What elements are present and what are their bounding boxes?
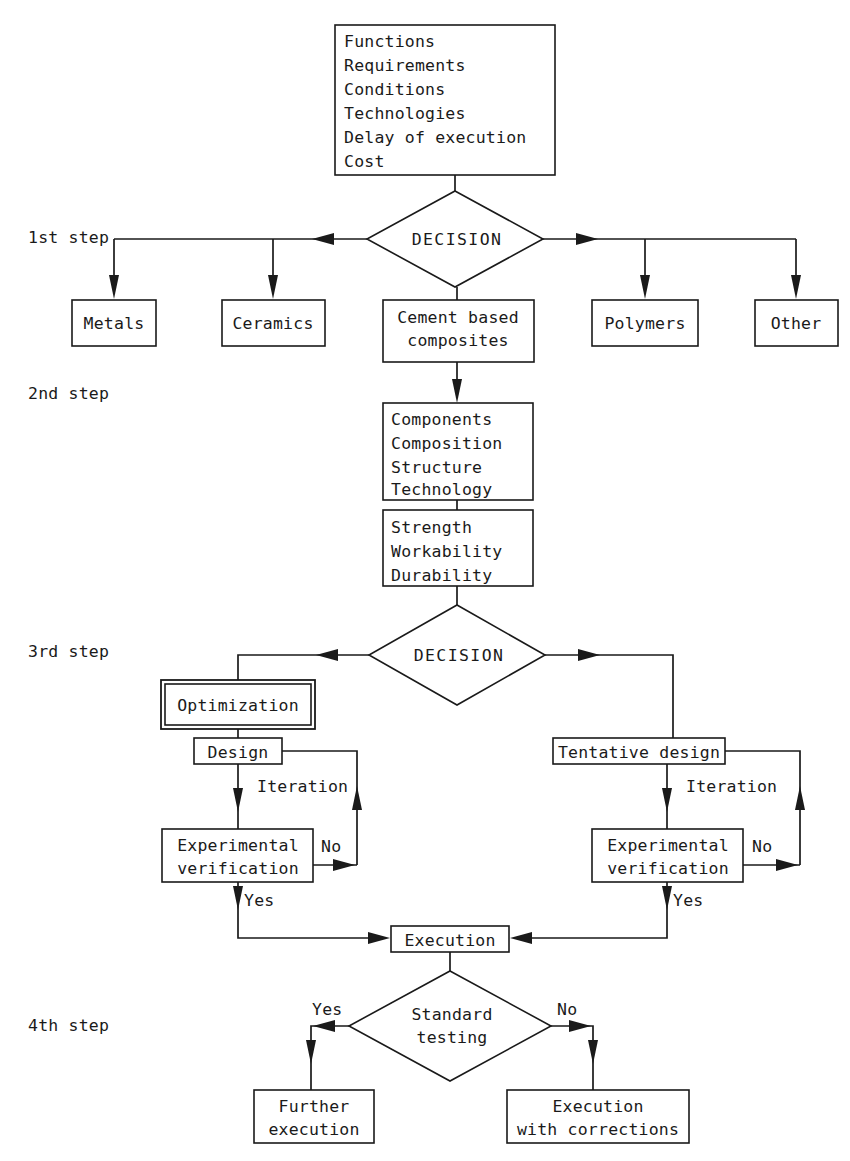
edge-label-iteration-left: Iteration (257, 777, 348, 796)
arrowhead-yes-right (662, 886, 672, 910)
cement-composites-line-1: Cement based (397, 308, 519, 327)
edge-decision2-to-tentative (545, 655, 673, 738)
arrowhead-execution-left (368, 932, 390, 944)
arrowhead-decision2-right (578, 649, 600, 661)
step-label-1st: 1st step (28, 228, 109, 247)
arrowhead-iteration-right (795, 786, 805, 810)
node-polymers: Polymers (592, 300, 698, 346)
arrowhead-other (791, 275, 801, 299)
node-requirements: Functions Requirements Conditions Techno… (335, 25, 555, 175)
arrowhead-ceramics (268, 275, 278, 299)
requirements-line-6: Cost (344, 152, 385, 171)
further-execution-line-2: execution (268, 1120, 359, 1139)
other-label: Other (771, 314, 822, 333)
arrowhead-execution-right (510, 932, 532, 944)
edge-verification-right-yes-to-execution (517, 882, 667, 938)
edge-label-yes-right: Yes (673, 891, 703, 910)
cement-composites-line-2: composites (407, 331, 508, 350)
arrowhead-yes-left (233, 886, 243, 910)
node-optimization: Optimization (161, 680, 315, 729)
arrowhead-verification-right (662, 788, 672, 812)
arrowhead-decision1-right (576, 233, 598, 245)
properties-line-2: Workability (391, 542, 502, 561)
requirements-line-4: Technologies (344, 104, 466, 123)
decision1-label: DECISION (412, 230, 503, 249)
arrowhead-execution-corrections (588, 1040, 598, 1064)
requirements-line-2: Requirements (344, 56, 466, 75)
ceramics-label: Ceramics (232, 314, 313, 333)
properties-line-3: Durability (391, 566, 492, 585)
arrowhead-decision2-left (316, 649, 338, 661)
execution-corrections-line-2: with corrections (517, 1120, 679, 1139)
standard-testing-line-2: testing (417, 1028, 488, 1047)
edge-testing-yes (311, 1026, 349, 1090)
node-tentative-design: Tentative design (553, 738, 725, 764)
composition-line-3: Structure (391, 458, 482, 477)
standard-testing-shape (349, 971, 551, 1081)
edge-label-no-left: No (321, 837, 341, 856)
execution-corrections-line-1: Execution (552, 1097, 643, 1116)
arrowhead-verification-left (233, 788, 243, 812)
step-label-2nd: 2nd step (28, 384, 109, 403)
further-execution-line-1: Further (279, 1097, 350, 1116)
composition-line-2: Composition (391, 434, 502, 453)
arrowhead-no-right (776, 859, 798, 871)
design-label: Design (208, 743, 269, 762)
edge-testing-no (551, 1026, 593, 1090)
composition-line-1: Components (391, 410, 492, 429)
node-execution-with-corrections: Execution with corrections (507, 1090, 689, 1143)
node-experimental-verification-left: Experimental verification (162, 829, 313, 882)
requirements-line-1: Functions (344, 32, 435, 51)
verification-right-line-1: Experimental (607, 836, 729, 855)
flowchart-diagram: 1st step 2nd step 3rd step 4th step Func… (0, 0, 850, 1161)
arrowhead-iteration-left (352, 786, 362, 810)
standard-testing-line-1: Standard (411, 1005, 492, 1024)
arrowhead-metals (109, 275, 119, 299)
decision2-label: DECISION (414, 646, 505, 665)
properties-line-1: Strength (391, 518, 472, 537)
edge-label-iteration-right: Iteration (686, 777, 777, 796)
execution-label: Execution (404, 931, 495, 950)
node-cement-composites: Cement based composites (383, 300, 534, 362)
node-other: Other (755, 300, 838, 346)
edge-label-testing-no: No (557, 1000, 577, 1019)
arrowhead-no-left (333, 859, 355, 871)
verification-right-line-2: verification (607, 859, 729, 878)
edge-label-no-right: No (752, 837, 772, 856)
tentative-design-label: Tentative design (558, 743, 720, 762)
requirements-line-5: Delay of execution (344, 128, 526, 147)
arrowhead-composition (452, 379, 462, 403)
node-properties: Strength Workability Durability (383, 510, 533, 586)
step-label-4th: 4th step (28, 1016, 109, 1035)
composition-line-4: Technology (391, 480, 492, 499)
node-experimental-verification-right: Experimental verification (592, 829, 743, 882)
node-metals: Metals (72, 300, 156, 346)
node-ceramics: Ceramics (222, 300, 325, 346)
node-further-execution: Further execution (254, 1090, 374, 1143)
edge-label-testing-yes: Yes (312, 1000, 342, 1019)
verification-left-line-1: Experimental (177, 836, 299, 855)
verification-left-line-2: verification (177, 859, 299, 878)
arrowhead-testing-yes (313, 1020, 335, 1032)
requirements-line-3: Conditions (344, 80, 445, 99)
node-decision1: DECISION (367, 191, 543, 287)
node-decision2: DECISION (369, 605, 545, 705)
arrowhead-polymers (640, 275, 650, 299)
polymers-label: Polymers (604, 314, 685, 333)
edge-label-yes-left: Yes (244, 891, 274, 910)
metals-label: Metals (84, 314, 145, 333)
step-label-3rd: 3rd step (28, 642, 109, 661)
node-standard-testing: Standard testing (349, 971, 551, 1081)
node-execution: Execution (391, 926, 509, 952)
optimization-label: Optimization (177, 696, 299, 715)
arrowhead-testing-no (569, 1020, 591, 1032)
arrowhead-decision1-left (312, 233, 334, 245)
arrowhead-further-execution (306, 1040, 316, 1064)
node-design: Design (194, 738, 282, 764)
edge-decision2-to-optimization (238, 655, 369, 680)
node-composition: Components Composition Structure Technol… (383, 403, 533, 500)
